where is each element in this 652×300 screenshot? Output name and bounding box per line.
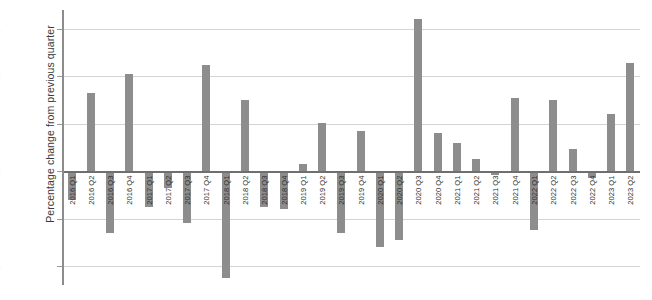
- y-axis-title: Percentage change from previous quarter: [44, 4, 56, 244]
- bar-series: 2016 Q12016 Q22016 Q32016 Q42017 Q12017 …: [62, 10, 640, 285]
- x-axis-label: 2019 Q1: [298, 176, 307, 220]
- bar[interactable]: [125, 74, 133, 171]
- x-axis-label: 2022 Q3: [568, 176, 577, 220]
- bar-group[interactable]: 2018 Q3: [255, 10, 274, 285]
- bar-group[interactable]: 2022 Q1: [524, 10, 543, 285]
- x-axis-label: 2022 Q4: [587, 176, 596, 220]
- x-axis-label: 2021 Q4: [510, 176, 519, 220]
- bar[interactable]: [511, 98, 519, 171]
- bar-chart: Percentage change from previous quarter …: [0, 0, 652, 300]
- x-axis-label: 2019 Q2: [318, 176, 327, 220]
- bar[interactable]: [549, 100, 557, 171]
- x-axis-label: 2019 Q4: [356, 176, 365, 220]
- bar[interactable]: [357, 131, 365, 171]
- bar[interactable]: [68, 171, 76, 199]
- bar-group[interactable]: 2023 Q1: [601, 10, 620, 285]
- bar-group[interactable]: 2019 Q4: [351, 10, 370, 285]
- bar[interactable]: [607, 114, 615, 171]
- bar[interactable]: [299, 164, 307, 171]
- zero-line: [62, 171, 640, 173]
- bar-group[interactable]: 2019 Q2: [312, 10, 331, 285]
- x-axis-label: 2023 Q2: [626, 176, 635, 220]
- x-axis-label: 2021 Q3: [491, 176, 500, 220]
- bar-group[interactable]: 2021 Q4: [505, 10, 524, 285]
- bar-group[interactable]: 2021 Q2: [467, 10, 486, 285]
- bar-group[interactable]: 2018 Q1: [216, 10, 235, 285]
- bar-group[interactable]: 2019 Q1: [293, 10, 312, 285]
- bar-group[interactable]: 2021 Q3: [486, 10, 505, 285]
- bar-group[interactable]: 2020 Q1: [370, 10, 389, 285]
- bar[interactable]: [337, 171, 345, 233]
- x-axis-label: 2016 Q2: [86, 176, 95, 220]
- bar-group[interactable]: 2021 Q1: [447, 10, 466, 285]
- bar[interactable]: [183, 171, 191, 223]
- x-axis-label: 2016 Q4: [125, 176, 134, 220]
- bar-group[interactable]: 2017 Q1: [139, 10, 158, 285]
- bar-group[interactable]: 2018 Q4: [274, 10, 293, 285]
- x-axis-label: 2022 Q2: [549, 176, 558, 220]
- bar-group[interactable]: 2017 Q4: [197, 10, 216, 285]
- bar[interactable]: [87, 93, 95, 171]
- bar-group[interactable]: 2016 Q4: [120, 10, 139, 285]
- x-axis-label: 2021 Q1: [452, 176, 461, 220]
- bar[interactable]: [376, 171, 384, 247]
- bar[interactable]: [434, 133, 442, 171]
- bar-group[interactable]: 2020 Q4: [428, 10, 447, 285]
- bar[interactable]: [530, 171, 538, 230]
- bar-group[interactable]: 2022 Q4: [582, 10, 601, 285]
- plot-area: 6420-2-4 2016 Q12016 Q22016 Q32016 Q4201…: [62, 10, 640, 285]
- x-axis-label: 2020 Q4: [433, 176, 442, 220]
- bar[interactable]: [280, 171, 288, 209]
- bar[interactable]: [260, 171, 268, 207]
- bar[interactable]: [145, 171, 153, 207]
- bar-group[interactable]: 2016 Q2: [81, 10, 100, 285]
- bar[interactable]: [569, 149, 577, 172]
- x-axis-label: 2018 Q2: [241, 176, 250, 220]
- bar[interactable]: [414, 19, 422, 171]
- bar-group[interactable]: 2022 Q2: [544, 10, 563, 285]
- x-axis-label: 2020 Q3: [414, 176, 423, 220]
- x-axis-label: 2017 Q4: [202, 176, 211, 220]
- bar[interactable]: [241, 100, 249, 171]
- bar-group[interactable]: 2022 Q3: [563, 10, 582, 285]
- bar[interactable]: [318, 123, 326, 172]
- bar[interactable]: [626, 63, 634, 171]
- x-axis-label: 2021 Q2: [472, 176, 481, 220]
- bar[interactable]: [106, 171, 114, 233]
- bar[interactable]: [395, 171, 403, 240]
- x-axis-label: 2023 Q1: [607, 176, 616, 220]
- bar-group[interactable]: 2016 Q1: [62, 10, 81, 285]
- bar[interactable]: [453, 143, 461, 171]
- y-axis-line: [62, 10, 64, 285]
- bar-group[interactable]: 2016 Q3: [101, 10, 120, 285]
- bar-group[interactable]: 2023 Q2: [621, 10, 640, 285]
- bar[interactable]: [164, 171, 172, 188]
- bar[interactable]: [222, 171, 230, 278]
- bar-group[interactable]: 2020 Q3: [409, 10, 428, 285]
- bar[interactable]: [202, 65, 210, 172]
- bar-group[interactable]: 2020 Q2: [390, 10, 409, 285]
- bar-group[interactable]: 2017 Q2: [158, 10, 177, 285]
- bar-group[interactable]: 2019 Q3: [332, 10, 351, 285]
- bar[interactable]: [472, 159, 480, 171]
- bar-group[interactable]: 2017 Q3: [178, 10, 197, 285]
- bar-group[interactable]: 2018 Q2: [235, 10, 254, 285]
